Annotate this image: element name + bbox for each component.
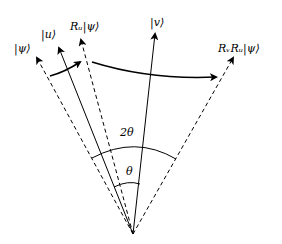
psi-label: |ψ⟩ [14, 42, 31, 56]
v-vector [133, 34, 155, 234]
theta-label: θ [126, 165, 133, 178]
psi-vector [37, 58, 133, 234]
reflection-v-arrow [92, 62, 216, 77]
two-theta-arc [92, 147, 176, 159]
two-theta-label: 2θ [119, 126, 134, 139]
u-label: |u⟩ [41, 28, 56, 42]
rvru-psi-label: RᵥRᵤ|ψ⟩ [217, 42, 260, 56]
rvru-psi-vector [133, 58, 233, 234]
theta-arc [114, 183, 140, 187]
u-vector [59, 48, 133, 234]
rotation-diagram: |ψ⟩ |u⟩ Rᵤ|ψ⟩ |v⟩ RᵥRᵤ|ψ⟩ 2θ θ [0, 0, 282, 244]
v-label: |v⟩ [150, 16, 164, 30]
ru-psi-label: Rᵤ|ψ⟩ [69, 20, 99, 34]
